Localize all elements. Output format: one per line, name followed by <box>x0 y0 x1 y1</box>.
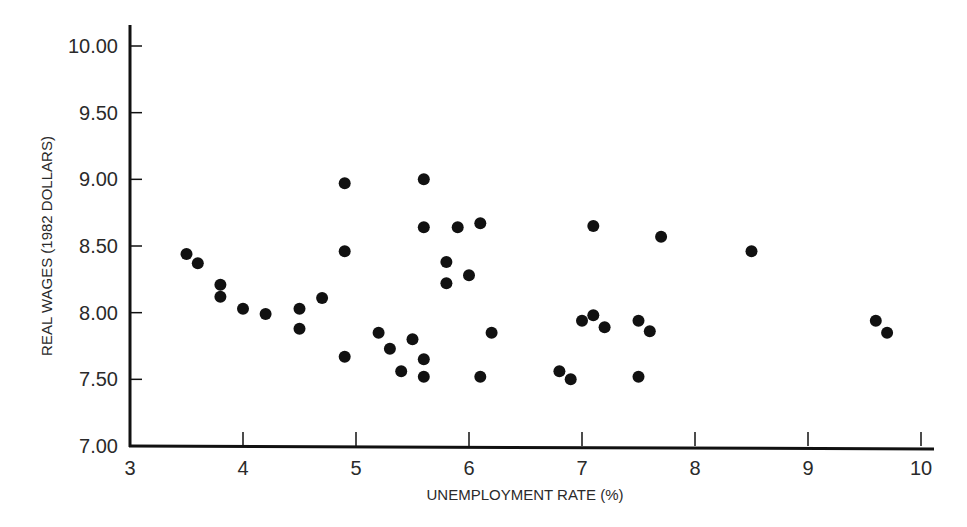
data-point <box>418 221 430 233</box>
scatter-chart: 7.007.508.008.509.009.5010.00 345678910 … <box>0 0 967 527</box>
data-point <box>418 173 430 185</box>
data-point <box>214 291 226 303</box>
data-point <box>565 373 577 385</box>
data-point <box>384 343 396 355</box>
data-point <box>339 351 351 363</box>
x-tick-label: 8 <box>689 457 700 479</box>
data-point <box>214 279 226 291</box>
data-point <box>746 245 758 257</box>
data-point <box>440 277 452 289</box>
data-point <box>633 371 645 383</box>
data-point <box>395 365 407 377</box>
data-point <box>587 220 599 232</box>
data-point <box>870 315 882 327</box>
x-tick-label: 3 <box>124 457 135 479</box>
data-point <box>294 303 306 315</box>
data-point <box>644 325 656 337</box>
data-point <box>452 221 464 233</box>
x-tick-label: 10 <box>910 457 932 479</box>
data-point <box>486 327 498 339</box>
y-axis-title: REAL WAGES (1982 DOLLARS) <box>38 136 55 356</box>
y-tick-label: 8.00 <box>79 302 118 324</box>
y-tick-label: 8.50 <box>79 235 118 257</box>
data-point <box>260 308 272 320</box>
x-tick-label: 5 <box>350 457 361 479</box>
data-point <box>881 327 893 339</box>
data-point <box>339 245 351 257</box>
data-point <box>440 256 452 268</box>
y-axis: 7.007.508.008.509.009.5010.00 <box>68 25 142 457</box>
y-tick-label: 10.00 <box>68 35 118 57</box>
x-tick-label: 9 <box>802 457 813 479</box>
data-point <box>576 315 588 327</box>
data-point <box>655 231 667 243</box>
y-tick-label: 9.00 <box>79 168 118 190</box>
data-point <box>474 217 486 229</box>
data-point <box>192 257 204 269</box>
data-point <box>316 292 328 304</box>
data-point <box>373 327 385 339</box>
data-point <box>474 371 486 383</box>
y-tick-label: 7.00 <box>79 435 118 457</box>
data-point <box>633 315 645 327</box>
x-axis-title: UNEMPLOYMENT RATE (%) <box>427 486 624 503</box>
data-point <box>463 269 475 281</box>
y-tick-label: 7.50 <box>79 368 118 390</box>
x-tick-label: 7 <box>576 457 587 479</box>
data-point <box>418 371 430 383</box>
data-point <box>339 177 351 189</box>
x-tick-label: 6 <box>463 457 474 479</box>
y-tick-label: 9.50 <box>79 102 118 124</box>
data-point <box>418 353 430 365</box>
data-point <box>587 309 599 321</box>
data-point <box>294 323 306 335</box>
data-point <box>181 248 193 260</box>
data-points <box>181 173 894 385</box>
data-point <box>407 333 419 345</box>
data-point <box>553 365 565 377</box>
x-axis: 345678910 <box>124 432 934 479</box>
data-point <box>599 321 611 333</box>
x-tick-label: 4 <box>237 457 248 479</box>
data-point <box>237 303 249 315</box>
